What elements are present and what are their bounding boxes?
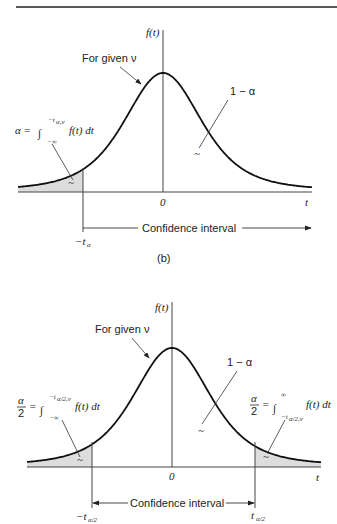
area-label: 1 − α <box>230 85 256 97</box>
left-tail-formula: α = ∫ −t α,ν −∞ f(t) dt <box>15 116 95 146</box>
left-critical-value-label: −t <box>76 510 87 522</box>
area-label-pointer <box>202 371 237 424</box>
left-tail-pointer <box>62 420 80 457</box>
figure-c: f(t) t 0 For given ν 1 − α ~ α 2 = ∫ −t … <box>17 301 332 524</box>
confidence-interval-label: Confidence interval <box>142 222 236 234</box>
right-tail-formula: α 2 = ∫ ∞ −t α/2,ν f(t) dt <box>250 391 332 423</box>
zero-tick-label: 0 <box>169 470 175 482</box>
tail-tilde-mark: ~ <box>68 176 74 188</box>
formula-lhs: α = <box>15 124 31 136</box>
confidence-interval-label: Confidence interval <box>130 497 224 509</box>
area-tilde-mark: ~ <box>198 424 204 436</box>
left-tail-formula: α 2 = ∫ −t α/2,ν −∞ f(t) dt <box>17 393 101 422</box>
fraction-numerator: α <box>18 394 24 406</box>
fraction-denominator: 2 <box>18 407 24 419</box>
area-tilde-mark: ~ <box>194 147 200 159</box>
figure-canvas: f(t) t 0 For given ν 1 − α ~ α = ∫ −t α,… <box>0 0 337 524</box>
y-axis-label: f(t) <box>155 301 169 314</box>
figure-caption: (b) <box>157 252 170 264</box>
t-distribution-curve <box>18 73 312 187</box>
figure-b: f(t) t 0 For given ν 1 − α ~ α = ∫ −t α,… <box>15 26 312 264</box>
curve-label: For given ν <box>82 52 137 64</box>
upper-limit: ∞ <box>281 391 286 399</box>
upper-limit: −t <box>48 116 56 124</box>
lower-limit-sub: α/2,ν <box>289 415 304 423</box>
fraction-denominator: 2 <box>251 405 257 417</box>
right-tail-pointer <box>268 420 285 452</box>
right-critical-value-sub: α/2 <box>256 515 266 523</box>
tail-label-pointer <box>52 144 73 180</box>
zero-tick-label: 0 <box>160 196 166 208</box>
lower-limit: −t <box>281 413 289 421</box>
right-critical-value-label: t <box>251 509 255 521</box>
left-critical-value-sub: α/2 <box>88 516 98 524</box>
formula-eq: = <box>262 398 269 410</box>
upper-limit: −t <box>49 393 57 401</box>
upper-limit-sub: α,ν <box>56 118 65 126</box>
integral-sign: ∫ <box>37 127 42 140</box>
integrand: f(t) dt <box>306 398 332 411</box>
lower-limit: −∞ <box>49 414 59 422</box>
formula-eq: = <box>29 400 36 412</box>
area-label: 1 − α <box>227 356 253 368</box>
x-axis-label: t <box>316 471 320 483</box>
lower-limit: −∞ <box>47 138 57 146</box>
curve-label-pointer <box>120 67 141 84</box>
left-tail-tilde-mark: ~ <box>77 453 83 465</box>
critical-value-label: −t <box>75 235 86 247</box>
fraction-numerator: α <box>251 392 257 404</box>
critical-value-sub: α <box>87 241 91 249</box>
upper-limit-sub: α/2,ν <box>57 395 72 403</box>
curve-label-pointer <box>132 338 149 358</box>
curve-label: For given ν <box>95 323 150 335</box>
integrand: f(t) dt <box>69 124 95 137</box>
x-axis-label: t <box>305 196 309 208</box>
t-distribution-curve <box>27 348 321 462</box>
integral-sign: ∫ <box>272 402 277 415</box>
y-axis-label: f(t) <box>146 26 160 39</box>
right-tail-tilde-mark: ~ <box>263 450 269 462</box>
integral-sign: ∫ <box>39 404 44 417</box>
integrand: f(t) dt <box>75 400 101 413</box>
